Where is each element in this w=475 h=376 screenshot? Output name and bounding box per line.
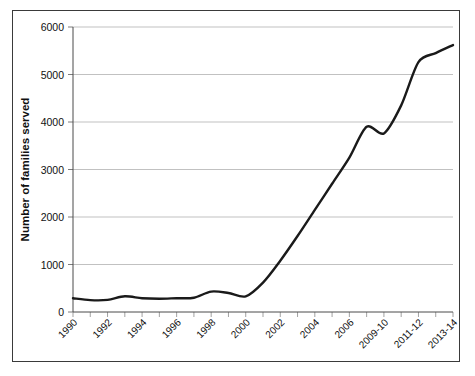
y-tick-label: 6000 — [41, 21, 65, 33]
x-tick-label: 1994 — [125, 316, 149, 340]
gridlines-group — [73, 27, 453, 265]
line-chart-svg: 0100020003000400050006000 19901992199419… — [13, 11, 459, 361]
y-tick-label: 2000 — [41, 211, 65, 223]
x-tick-label: 2011-12 — [392, 316, 426, 350]
y-tick-label: 4000 — [41, 116, 65, 128]
y-tick-label: 5000 — [41, 69, 65, 81]
x-tick-label: 2013-14 — [426, 316, 459, 350]
x-tick-label: 1990 — [56, 316, 80, 340]
y-axis-tick-labels-group: 0100020003000400050006000 — [41, 21, 65, 318]
y-tick-label: 3000 — [41, 164, 65, 176]
x-tick-label: 1996 — [160, 316, 184, 340]
x-tick-label: 2002 — [263, 316, 287, 340]
x-tick-label: 2006 — [332, 316, 356, 340]
y-tick-label: 0 — [58, 306, 64, 318]
y-axis-title: Number of families served — [19, 98, 31, 242]
y-tick-label: 1000 — [41, 259, 65, 271]
x-axis-ticks-group — [73, 312, 453, 317]
x-axis-tick-labels-group: 1990199219941996199820002002200420062009… — [56, 316, 459, 350]
chart-plot-area: 0100020003000400050006000 19901992199419… — [13, 11, 459, 361]
x-tick-label: 2004 — [298, 316, 322, 340]
chart-figure: 0100020003000400050006000 19901992199419… — [12, 10, 460, 362]
data-series-line — [73, 45, 453, 300]
x-tick-label: 2000 — [229, 316, 253, 340]
y-axis-ticks-group — [68, 27, 73, 312]
x-tick-label: 1998 — [194, 316, 218, 340]
x-tick-label: 1992 — [90, 316, 114, 340]
x-tick-label: 2009-10 — [357, 316, 391, 350]
